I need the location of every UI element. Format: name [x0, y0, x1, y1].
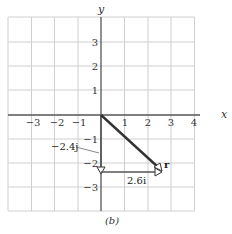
svg-text:1: 1: [92, 85, 98, 96]
svg-text:−3: −3: [26, 117, 41, 128]
y-component-arrowhead-icon: [97, 167, 105, 174]
y-component-leader-line: [76, 147, 99, 153]
vector-diagram: x y −3 −2 −1 1 2 3 4 1 2 3 −1 −2 −3 r −2…: [0, 0, 232, 234]
svg-text:3: 3: [92, 37, 98, 48]
y-axis-label: y: [97, 3, 105, 16]
svg-text:−1: −1: [83, 134, 98, 145]
svg-text:−1: −1: [72, 117, 87, 128]
svg-text:4: 4: [191, 117, 197, 128]
x-tick-labels: −3 −2 −1 1 2 3 4: [26, 117, 198, 128]
svg-text:1: 1: [122, 117, 128, 128]
svg-text:−2: −2: [83, 158, 98, 169]
vector-r-label: r: [164, 159, 170, 170]
y-component-label: −2.4j: [51, 141, 78, 152]
svg-text:2: 2: [145, 117, 151, 128]
svg-text:−3: −3: [83, 182, 98, 193]
svg-text:3: 3: [168, 117, 174, 128]
svg-text:2: 2: [92, 61, 98, 72]
svg-text:−2: −2: [50, 117, 65, 128]
x-component-label: 2.6i: [127, 175, 146, 186]
figure-caption: (b): [105, 215, 119, 226]
x-axis-label: x: [221, 108, 228, 121]
